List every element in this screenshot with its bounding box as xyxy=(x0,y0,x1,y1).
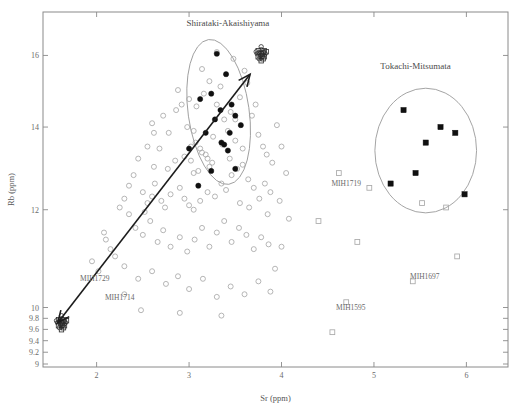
data-point-open-circle xyxy=(102,230,107,235)
data-point-open-circle xyxy=(188,158,193,163)
y-tick-label: 9.8 xyxy=(29,314,39,323)
x-tick-label: 2 xyxy=(95,371,99,380)
y-tick-label: 12 xyxy=(31,206,39,215)
data-point-open-circle xyxy=(277,198,282,203)
data-point-open-circle xyxy=(266,242,271,247)
y-tick-label: 9.4 xyxy=(29,337,39,346)
data-point-open-circle xyxy=(227,156,232,161)
data-point-filled-circle xyxy=(233,166,238,171)
data-point-open-circle xyxy=(175,274,180,279)
data-point-open-circle xyxy=(200,276,205,281)
data-point-open-circle xyxy=(219,313,224,318)
x-axis-title: Sr (ppm) xyxy=(260,393,291,403)
data-point-open-circle xyxy=(256,132,261,137)
data-point-open-circle xyxy=(126,212,131,217)
data-point-filled-circle xyxy=(225,148,230,153)
data-point-open-circle xyxy=(261,144,266,149)
data-point-open-circle xyxy=(161,113,166,118)
data-point-open-circle xyxy=(150,121,155,126)
data-point-open-circle xyxy=(246,177,251,182)
data-point-open-circle xyxy=(155,239,160,244)
data-point-open-circle xyxy=(214,230,219,235)
y-tick-label: 9.6 xyxy=(29,325,39,334)
annotation-label: MIH1697 xyxy=(410,272,440,281)
y-tick-label: 10 xyxy=(31,304,39,313)
plot-svg: 23456161412109.89.69.49.29Sr (ppm)Rb (pp… xyxy=(0,0,519,418)
data-point-open-circle xyxy=(279,144,284,149)
data-point-open-circle xyxy=(187,287,192,292)
data-point-open-circle xyxy=(187,97,192,102)
data-point-open-circle xyxy=(187,203,192,208)
data-point-open-circle xyxy=(174,108,179,113)
trend-arrow-line xyxy=(58,74,250,323)
data-point-open-circle xyxy=(117,205,122,210)
data-point-open-circle xyxy=(148,219,153,224)
data-point-filled-circle xyxy=(222,142,227,147)
data-point-open-circle xyxy=(179,102,184,107)
data-point-open-circle xyxy=(205,156,210,161)
data-point-open-circle xyxy=(228,109,233,114)
data-point-open-circle xyxy=(237,201,242,206)
data-point-open-circle xyxy=(140,190,145,195)
data-point-open-circle xyxy=(122,264,127,269)
data-point-open-circle xyxy=(265,212,270,217)
data-point-filled-square xyxy=(401,107,406,112)
data-point-open-circle xyxy=(194,104,199,109)
data-point-open-circle xyxy=(150,269,155,274)
data-point-filled-circle xyxy=(229,102,234,107)
annotation-label: Shirataki-Akaishiyama xyxy=(186,18,269,28)
data-point-open-circle xyxy=(108,247,113,252)
data-point-open-circle xyxy=(270,160,275,165)
data-point-filled-square xyxy=(462,192,467,197)
data-point-filled-square xyxy=(423,140,428,145)
group-ellipse xyxy=(375,88,477,213)
data-point-open-circle xyxy=(168,192,173,197)
data-point-filled-square xyxy=(388,181,393,186)
data-point-open-circle xyxy=(237,95,242,100)
data-point-filled-circle xyxy=(196,183,201,188)
data-point-filled-circle xyxy=(227,130,232,135)
data-point-open-circle xyxy=(138,308,143,313)
data-point-open-circle xyxy=(259,235,264,240)
data-point-filled-square xyxy=(438,124,443,129)
scatter-figure: 23456161412109.89.69.49.29Sr (ppm)Rb (pp… xyxy=(0,0,519,418)
data-point-open-circle xyxy=(157,146,162,151)
data-point-filled-circle xyxy=(214,51,219,56)
data-point-open-circle xyxy=(182,196,187,201)
data-point-filled-circle xyxy=(223,72,228,77)
data-point-open-circle xyxy=(163,281,168,286)
data-point-open-square xyxy=(330,330,335,335)
data-point-open-circle xyxy=(256,279,261,284)
data-point-open-circle xyxy=(214,294,219,299)
data-point-open-circle xyxy=(242,292,247,297)
data-point-open-square xyxy=(367,185,372,190)
data-point-open-circle xyxy=(222,117,227,122)
data-point-open-square xyxy=(420,201,425,206)
data-point-open-square xyxy=(336,171,341,176)
data-point-open-circle xyxy=(185,249,190,254)
data-point-open-circle xyxy=(89,259,94,264)
data-point-open-circle xyxy=(257,196,262,201)
data-point-open-circle xyxy=(251,185,256,190)
data-point-open-circle xyxy=(224,187,229,192)
x-tick-label: 4 xyxy=(280,371,284,380)
data-point-filled-circle xyxy=(238,123,243,128)
data-point-open-circle xyxy=(212,194,217,199)
data-point-open-circle xyxy=(205,190,210,195)
x-tick-label: 5 xyxy=(372,371,376,380)
data-point-open-square xyxy=(355,240,360,245)
data-point-open-circle xyxy=(173,158,178,163)
data-point-open-circle xyxy=(136,156,141,161)
cluster-marker xyxy=(259,45,263,49)
data-point-filled-circle xyxy=(209,168,214,173)
data-point-open-circle xyxy=(177,235,182,240)
annotation-label: MIH1719 xyxy=(331,179,361,188)
data-point-filled-square xyxy=(413,170,418,175)
y-tick-label: 14 xyxy=(31,123,39,132)
data-point-filled-circle xyxy=(233,113,238,118)
data-point-open-circle xyxy=(207,79,212,84)
data-point-open-circle xyxy=(168,244,173,249)
y-axis-title: Rb (ppm) xyxy=(6,173,16,206)
data-point-open-circle xyxy=(242,68,247,73)
data-point-open-circle xyxy=(185,125,190,130)
